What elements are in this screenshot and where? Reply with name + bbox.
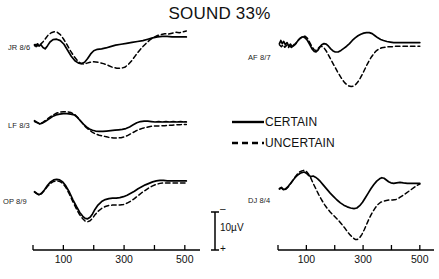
trace-certain-af-8-7 [279,33,419,52]
trace-uncertain-dj-8-4 [279,170,419,239]
trace-certain-op-8-9 [35,179,187,218]
waveform-panel-dj-8-4 [279,170,419,239]
subject-label-lf-8-3: LF 8/3 [8,121,30,130]
subject-label-af-8-7: AF 8/7 [248,53,271,62]
legend-label-certain: CERTAIN [265,115,317,129]
time-axes [33,245,434,250]
trace-uncertain-lf-8-3 [35,112,187,138]
trace-certain-lf-8-3 [35,114,187,132]
axis-tick-label-right-500: 500 [411,253,429,265]
subject-label-op-8-9: OP 8/9 [3,197,27,206]
waveform-traces [35,31,420,240]
subject-label-dj-8-4: DJ 8/4 [248,196,270,205]
scale-value-label: 10µV [220,222,244,233]
waveform-panel-op-8-9 [35,179,187,221]
axis-tick-label-left-100: 100 [55,253,73,265]
waveform-panel-af-8-7 [279,33,419,87]
axis-tick-label-left-300: 300 [115,253,133,265]
axis-tick-label-right-100: 100 [298,253,316,265]
trace-certain-dj-8-4 [279,172,419,209]
legend-sample-lines [232,122,264,143]
waveform-panel-jr-8-6 [35,31,187,68]
axis-tick-label-left-500: 500 [176,253,194,265]
erp-figure: SOUND 33% JR 8/6LF 8/3OP 8/9AF 8/7DJ 8/4… [0,0,439,279]
trace-uncertain-op-8-9 [35,181,187,222]
waveform-panel-lf-8-3 [35,112,187,138]
scale-negative-mark: – [220,203,226,214]
trace-certain-jr-8-6 [35,36,187,63]
scale-positive-mark: + [220,243,226,254]
axis-tick-label-right-300: 300 [354,253,372,265]
amplitude-scale-bar [211,212,219,250]
waveform-canvas [0,0,439,279]
subject-label-jr-8-6: JR 8/6 [8,43,30,52]
legend-label-uncertain: UNCERTAIN [265,136,335,150]
